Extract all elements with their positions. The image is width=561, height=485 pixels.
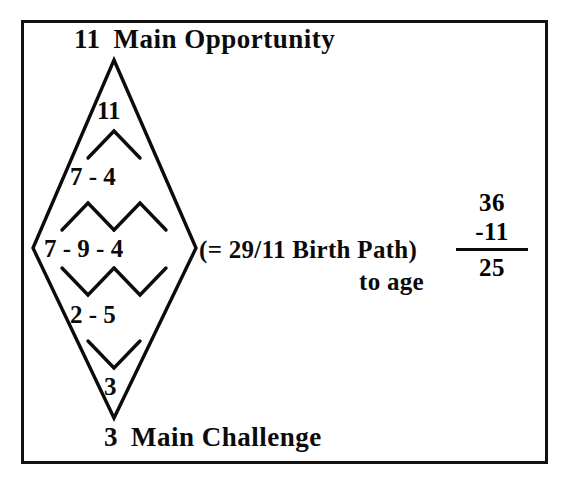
row-base-values: 7 - 9 - 4 — [44, 235, 123, 262]
calc-result: 25 — [456, 253, 528, 282]
top-label-text: Main Opportunity — [114, 24, 336, 54]
bottom-label-number: 3 — [104, 422, 118, 452]
birth-path-annotation: (= 29/11 Birth Path) — [199, 237, 417, 262]
top-label: 11Main Opportunity — [74, 26, 335, 53]
row-base: 7 - 9 - 4 — [44, 236, 123, 261]
row-apex: 11 — [97, 98, 121, 123]
bottom-label-text: Main Challenge — [131, 422, 322, 452]
calc-minuend: 36 — [456, 188, 528, 217]
row-bottom-value: 3 — [104, 373, 117, 400]
top-label-number: 11 — [74, 24, 101, 54]
bottom-label: 3Main Challenge — [104, 424, 322, 451]
row-apex-value: 11 — [97, 97, 121, 124]
numerology-diagram-page: 11Main Opportunity 11 7 - 4 7 - 9 - 4 2 … — [0, 0, 561, 485]
calc-divider-rule — [456, 248, 528, 251]
row-fourth: 2 - 5 — [70, 302, 116, 327]
row-second: 7 - 4 — [70, 164, 116, 189]
row-bottom: 3 — [104, 374, 117, 399]
to-age-annotation: to age — [359, 269, 424, 294]
age-calculation-block: 36 -11 25 — [456, 188, 528, 282]
row-second-values: 7 - 4 — [70, 163, 116, 190]
calc-subtrahend: -11 — [456, 217, 528, 246]
row-fourth-values: 2 - 5 — [70, 301, 116, 328]
